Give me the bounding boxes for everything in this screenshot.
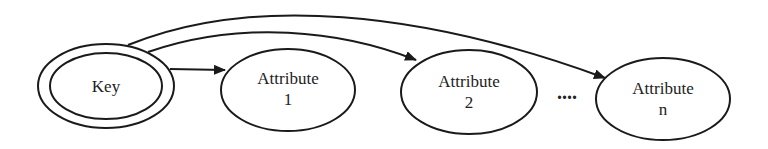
attribute-2-label-line2: 2 bbox=[465, 93, 474, 112]
attribute-2-label-line1: Attribute bbox=[438, 72, 499, 91]
attribute-n-label-line2: n bbox=[659, 100, 668, 119]
attribute-1-node: Attribute 1 bbox=[221, 49, 355, 131]
edge-key-to-attribute-1 bbox=[170, 69, 225, 70]
key-attribute-diagram: Key Attribute 1 Attribute 2 .... Attribu… bbox=[0, 0, 768, 149]
ellipsis-dots: .... bbox=[557, 81, 577, 103]
attribute-2-node: Attribute 2 bbox=[401, 50, 537, 134]
key-label: Key bbox=[92, 77, 121, 96]
key-node: Key bbox=[38, 44, 174, 128]
attribute-1-label-line1: Attribute bbox=[257, 69, 318, 88]
attribute-n-label-line1: Attribute bbox=[632, 79, 693, 98]
attribute-n-node: Attribute n bbox=[596, 58, 730, 140]
attribute-1-label-line2: 1 bbox=[284, 90, 293, 109]
